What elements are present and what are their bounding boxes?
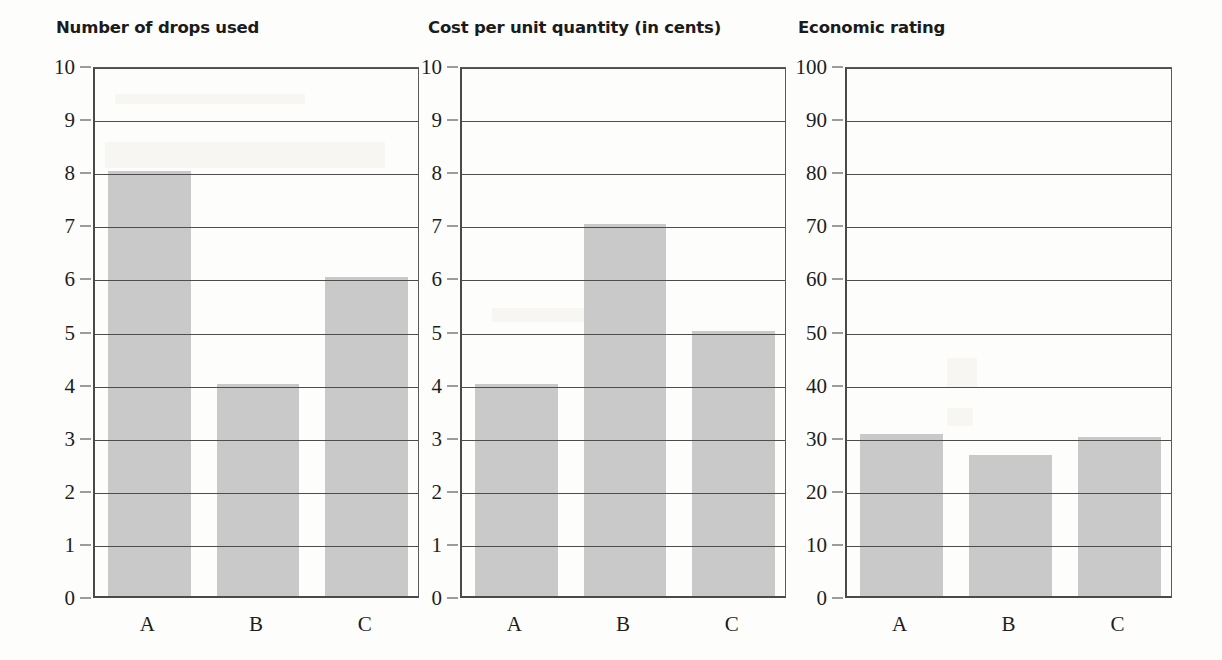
y-tick-mark-economic-10 bbox=[832, 544, 843, 545]
y-tick-mark-drops-5 bbox=[80, 332, 91, 333]
gridline-economic-50 bbox=[847, 334, 1171, 335]
y-tick-label-drops-8: 8 bbox=[35, 161, 75, 186]
y-tick-label-cost-5: 5 bbox=[402, 320, 442, 345]
y-tick-label-economic-100: 100 bbox=[787, 55, 827, 80]
y-tick-label-cost-2: 2 bbox=[402, 479, 442, 504]
y-tick-label-drops-3: 3 bbox=[35, 426, 75, 451]
y-tick-mark-economic-100 bbox=[832, 67, 843, 68]
plot-area-cost bbox=[460, 67, 786, 598]
x-tick-label-cost-C: C bbox=[690, 612, 773, 637]
y-tick-label-economic-90: 90 bbox=[787, 108, 827, 133]
y-tick-mark-cost-2 bbox=[447, 491, 458, 492]
y-tick-mark-cost-10 bbox=[447, 67, 458, 68]
y-tick-label-economic-10: 10 bbox=[787, 532, 827, 557]
plot-area-economic bbox=[845, 67, 1172, 598]
y-tick-label-economic-20: 20 bbox=[787, 479, 827, 504]
gridline-economic-40 bbox=[847, 387, 1171, 388]
y-tick-mark-drops-1 bbox=[80, 544, 91, 545]
gridline-economic-100 bbox=[847, 68, 1171, 69]
y-tick-mark-cost-7 bbox=[447, 226, 458, 227]
y-tick-label-drops-10: 10 bbox=[35, 55, 75, 80]
y-tick-label-cost-8: 8 bbox=[402, 161, 442, 186]
y-tick-mark-economic-20 bbox=[832, 491, 843, 492]
y-tick-label-cost-4: 4 bbox=[402, 373, 442, 398]
x-tick-label-drops-B: B bbox=[215, 612, 298, 637]
gridline-drops-10 bbox=[95, 68, 418, 69]
y-tick-label-drops-2: 2 bbox=[35, 479, 75, 504]
y-tick-mark-drops-6 bbox=[80, 279, 91, 280]
y-tick-mark-cost-9 bbox=[447, 120, 458, 121]
chart-title-economic: Economic rating bbox=[798, 18, 945, 37]
y-tick-mark-economic-0 bbox=[832, 598, 843, 599]
gridline-economic-80 bbox=[847, 174, 1171, 175]
y-tick-mark-cost-1 bbox=[447, 544, 458, 545]
y-tick-label-economic-70: 70 bbox=[787, 214, 827, 239]
chart-title-cost: Cost per unit quantity (in cents) bbox=[428, 18, 721, 37]
y-tick-label-economic-50: 50 bbox=[787, 320, 827, 345]
y-tick-mark-drops-7 bbox=[80, 226, 91, 227]
gridline-cost-9 bbox=[462, 121, 785, 122]
chart-panel-economic: Economic rating 0102030405060708090100AB… bbox=[790, 0, 1222, 660]
gridline-economic-90 bbox=[847, 121, 1171, 122]
bar-economic-B bbox=[969, 455, 1052, 596]
bar-cost-A bbox=[475, 384, 558, 596]
bar-drops-C bbox=[325, 277, 408, 596]
x-tick-label-economic-A: A bbox=[858, 612, 941, 637]
y-tick-mark-cost-0 bbox=[447, 598, 458, 599]
y-tick-mark-economic-40 bbox=[832, 385, 843, 386]
x-tick-label-economic-C: C bbox=[1076, 612, 1159, 637]
x-tick-label-cost-B: B bbox=[582, 612, 665, 637]
chart-title-drops: Number of drops used bbox=[56, 18, 259, 37]
gridline-drops-9 bbox=[95, 121, 418, 122]
y-tick-label-cost-7: 7 bbox=[402, 214, 442, 239]
y-tick-mark-drops-3 bbox=[80, 438, 91, 439]
y-tick-label-drops-5: 5 bbox=[35, 320, 75, 345]
x-tick-label-drops-A: A bbox=[106, 612, 189, 637]
y-tick-label-cost-0: 0 bbox=[402, 586, 442, 611]
y-tick-mark-drops-9 bbox=[80, 120, 91, 121]
y-tick-mark-economic-50 bbox=[832, 332, 843, 333]
chart-panel-drops: Number of drops used 012345678910ABC bbox=[0, 0, 420, 660]
y-tick-mark-cost-5 bbox=[447, 332, 458, 333]
x-tick-label-drops-C: C bbox=[323, 612, 406, 637]
x-tick-label-cost-A: A bbox=[473, 612, 556, 637]
gridline-economic-60 bbox=[847, 280, 1171, 281]
y-tick-mark-economic-70 bbox=[832, 226, 843, 227]
y-tick-label-cost-6: 6 bbox=[402, 267, 442, 292]
y-tick-mark-drops-0 bbox=[80, 598, 91, 599]
y-tick-label-economic-0: 0 bbox=[787, 586, 827, 611]
y-tick-label-drops-6: 6 bbox=[35, 267, 75, 292]
y-tick-label-drops-0: 0 bbox=[35, 586, 75, 611]
y-tick-label-cost-1: 1 bbox=[402, 532, 442, 557]
y-tick-label-drops-4: 4 bbox=[35, 373, 75, 398]
y-tick-label-economic-30: 30 bbox=[787, 426, 827, 451]
y-tick-label-cost-10: 10 bbox=[402, 55, 442, 80]
bar-economic-C bbox=[1078, 437, 1161, 596]
y-tick-mark-cost-8 bbox=[447, 173, 458, 174]
y-tick-mark-drops-10 bbox=[80, 67, 91, 68]
y-tick-mark-economic-80 bbox=[832, 173, 843, 174]
gridline-cost-8 bbox=[462, 174, 785, 175]
y-tick-mark-drops-2 bbox=[80, 491, 91, 492]
bar-cost-C bbox=[692, 331, 775, 597]
y-tick-mark-drops-4 bbox=[80, 385, 91, 386]
y-tick-mark-economic-30 bbox=[832, 438, 843, 439]
y-tick-mark-cost-6 bbox=[447, 279, 458, 280]
y-tick-label-cost-3: 3 bbox=[402, 426, 442, 451]
y-tick-mark-economic-60 bbox=[832, 279, 843, 280]
y-tick-label-cost-9: 9 bbox=[402, 108, 442, 133]
gridline-cost-10 bbox=[462, 68, 785, 69]
y-tick-mark-cost-3 bbox=[447, 438, 458, 439]
x-tick-label-economic-B: B bbox=[967, 612, 1050, 637]
y-tick-label-drops-7: 7 bbox=[35, 214, 75, 239]
y-tick-label-economic-40: 40 bbox=[787, 373, 827, 398]
bar-economic-A bbox=[860, 434, 943, 596]
gridline-economic-70 bbox=[847, 227, 1171, 228]
y-tick-label-drops-1: 1 bbox=[35, 532, 75, 557]
y-tick-label-economic-80: 80 bbox=[787, 161, 827, 186]
plot-area-drops bbox=[93, 67, 419, 598]
chart-panel-cost: Cost per unit quantity (in cents) 012345… bbox=[420, 0, 790, 660]
bar-cost-B bbox=[584, 224, 667, 596]
y-tick-mark-drops-8 bbox=[80, 173, 91, 174]
y-tick-label-drops-9: 9 bbox=[35, 108, 75, 133]
